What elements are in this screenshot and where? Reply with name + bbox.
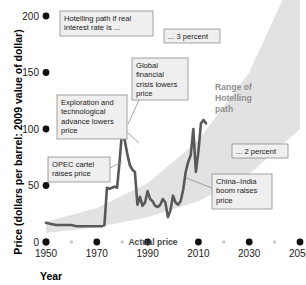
y-tick-label: 150 [22,67,39,78]
annotation-text: ... 2 percent [236,147,277,156]
y-tick-major [43,182,50,189]
x-tick-label: 1950 [35,248,58,259]
annotation-text: OPEC cartelraises price [52,160,95,179]
y-tick-label: 100 [22,124,39,135]
annotation-two-percent: ... 2 percent [232,144,288,158]
annotation-china-india-boom: China–Indiaboom raisesprice [212,174,272,209]
annotation-exploration-technological-advance: Exploration andtechnologicaladvance lowe… [57,95,127,139]
y-tick-label: 200 [22,11,39,22]
x-tick-major [297,239,304,246]
y-tick-major [43,239,50,246]
y-tick-label: 0 [33,237,39,248]
x-tick-major [195,239,202,246]
x-axis-title: Year [40,270,62,282]
x-tick-label: 2050 [289,248,306,259]
oil-price-hotelling-chart: 195019701990201020302050 050100150200 Ho… [0,0,306,285]
x-tick-minor [121,240,124,243]
x-tick-minor [70,240,73,243]
annotation-text: ... 3 percent [168,32,209,41]
chart-canvas: 195019701990201020302050 050100150200 Ho… [0,0,306,285]
y-tick-label: 50 [28,180,40,191]
y-tick-major [43,13,50,20]
x-tick-major [93,239,100,246]
y-axis-title: Price (dollars per barrel: 2009 value of… [12,29,24,254]
x-tick-label: 2030 [238,248,261,259]
y-tick-major [43,126,50,133]
annotation-hotelling-rate-note: Hotelling path if realinterest rate is .… [60,11,153,36]
actual-price-label: Actual price [128,237,177,247]
y-tick-major [43,69,50,76]
x-tick-minor [273,240,276,243]
x-tick-major [246,239,253,246]
annotation-global-financial-crisis: Globalfinancialcrisis lowersprice [132,58,188,100]
x-tick-label: 2010 [187,248,210,259]
annotation-opec-cartel: OPEC cartelraises price [48,157,110,182]
x-tick-label: 1970 [86,248,109,259]
x-tick-minor [222,240,225,243]
x-tick-label: 1990 [136,248,159,259]
annotation-three-percent: ... 3 percent [164,29,220,43]
